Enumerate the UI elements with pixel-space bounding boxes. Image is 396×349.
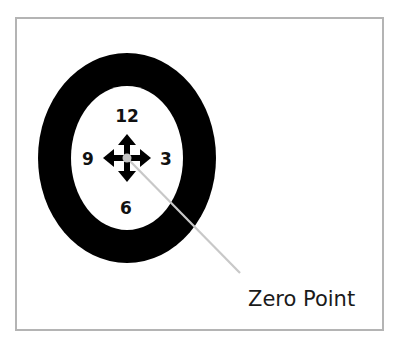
zero-point-diagram: 12 3 6 9 Zero Point xyxy=(0,0,396,349)
zero-point-dot xyxy=(123,154,132,163)
label-6: 6 xyxy=(120,198,132,218)
label-9: 9 xyxy=(82,149,94,169)
label-3: 3 xyxy=(160,149,172,169)
label-12: 12 xyxy=(115,106,139,126)
zero-point-label: Zero Point xyxy=(248,287,355,311)
